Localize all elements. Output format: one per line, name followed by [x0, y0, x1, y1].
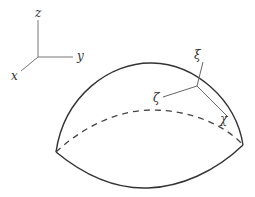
zeta-axis-label: ζ [153, 92, 160, 104]
dome-outline [56, 63, 243, 152]
y-axis-label: y [77, 50, 84, 62]
local-axes [163, 62, 228, 117]
xi-axis-label: ξ [194, 49, 201, 61]
global-axes [21, 20, 73, 71]
xi-axis [197, 62, 203, 86]
zeta-axis [163, 86, 197, 97]
x-axis-label: x [11, 70, 18, 82]
dome-diagram [0, 0, 255, 197]
z-axis-label: z [35, 7, 41, 19]
chi-axis-label: χ [220, 113, 227, 125]
x-axis [21, 57, 38, 71]
base-back-arc-dashed [56, 110, 243, 152]
base-front-arc [56, 145, 243, 188]
